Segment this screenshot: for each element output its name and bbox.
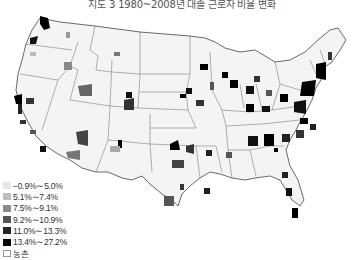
legend-label: 11.0%∼13.3% <box>13 226 66 236</box>
legend-swatch <box>3 193 11 200</box>
legend-swatch <box>3 227 11 234</box>
legend-label: 13.4%∼27.2% <box>13 237 67 247</box>
legend-item: 9.2%∼10.9% <box>3 214 67 225</box>
legend-item: −0.9%∼5.0% <box>3 180 67 191</box>
legend-item: 7.5%∼9.1% <box>3 203 67 214</box>
legend-swatch <box>3 216 11 223</box>
legend-swatch-rural <box>3 250 11 257</box>
legend-label: 9.2%∼10.9% <box>13 215 62 225</box>
legend-item: 13.4%∼27.2% <box>3 236 67 247</box>
legend-label: 농촌 <box>13 247 29 259</box>
legend-swatch <box>3 239 11 246</box>
legend-item: 11.0%∼13.3% <box>3 225 67 236</box>
map-legend: −0.9%∼5.0% 5.1%∼7.4% 7.5%∼9.1% 9.2%∼10.9… <box>3 180 67 259</box>
legend-swatch <box>3 205 11 212</box>
legend-label: −0.9%∼5.0% <box>13 181 63 191</box>
legend-label: 7.5%∼9.1% <box>13 203 58 213</box>
legend-swatch <box>3 182 11 189</box>
legend-label: 5.1%∼7.4% <box>13 192 58 202</box>
legend-item: 농촌 <box>3 248 67 259</box>
legend-item: 5.1%∼7.4% <box>3 191 67 202</box>
